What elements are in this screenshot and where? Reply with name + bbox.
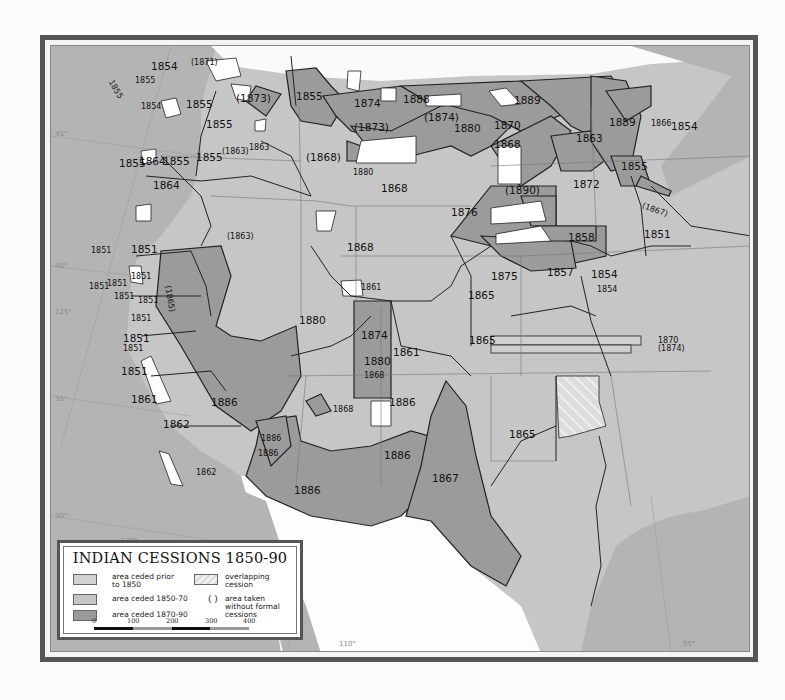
strip-1870 — [491, 345, 631, 353]
svg-text:1874: 1874 — [354, 97, 381, 109]
svg-text:1855: 1855 — [163, 155, 190, 167]
svg-text:95°: 95° — [683, 640, 695, 648]
svg-text:1861: 1861 — [131, 393, 158, 405]
svg-text:1862: 1862 — [163, 418, 190, 430]
svg-text:1889: 1889 — [514, 94, 541, 106]
svg-text:1851: 1851 — [123, 332, 150, 344]
svg-text:1854: 1854 — [141, 102, 161, 111]
svg-text:1863: 1863 — [576, 132, 603, 144]
svg-text:1851: 1851 — [131, 272, 151, 281]
legend-label-1850-70: area ceded 1850-70 — [112, 595, 188, 603]
svg-text:1868: 1868 — [347, 241, 374, 253]
svg-text:1880: 1880 — [299, 314, 326, 326]
svg-text:1874: 1874 — [361, 329, 388, 341]
svg-text:45°: 45° — [55, 130, 67, 138]
svg-text:1861: 1861 — [393, 346, 420, 358]
svg-text:1851: 1851 — [89, 282, 109, 291]
res-4 — [426, 94, 461, 106]
svg-text:125°: 125° — [55, 308, 72, 316]
svg-text:1855: 1855 — [135, 76, 155, 85]
svg-text:1868: 1868 — [494, 138, 521, 150]
svg-text:1857: 1857 — [547, 266, 574, 278]
svg-text:1861: 1861 — [361, 283, 381, 292]
res-8 — [255, 119, 266, 131]
legend-title: INDIAN CESSIONS 1850-90 — [60, 550, 300, 566]
svg-text:30°: 30° — [55, 512, 67, 520]
svg-text:1864: 1864 — [153, 179, 180, 191]
strip-1865 — [491, 336, 641, 345]
svg-text:1868: 1868 — [364, 371, 384, 380]
svg-text:1886: 1886 — [261, 434, 281, 443]
svg-text:1851: 1851 — [114, 292, 134, 301]
svg-text:1855: 1855 — [196, 151, 223, 163]
svg-text:(1868): (1868) — [306, 151, 341, 163]
svg-text:1851: 1851 — [138, 296, 158, 305]
scale-tick-200: 200 — [166, 617, 178, 625]
svg-text:1854: 1854 — [151, 60, 178, 72]
svg-text:(1871): (1871) — [191, 58, 218, 67]
area-1880-co — [354, 301, 391, 398]
svg-text:1851: 1851 — [121, 365, 148, 377]
svg-text:1889: 1889 — [609, 116, 636, 128]
svg-text:1872: 1872 — [573, 178, 600, 190]
svg-text:(1873): (1873) — [236, 92, 271, 104]
svg-text:1886: 1886 — [258, 449, 278, 458]
swatch-prior-1850 — [73, 574, 97, 585]
parentheses-symbol: ( ) — [208, 595, 218, 603]
svg-text:1855: 1855 — [119, 157, 146, 169]
svg-text:(1873): (1873) — [354, 121, 389, 133]
svg-text:1880: 1880 — [454, 122, 481, 134]
svg-text:1851: 1851 — [131, 243, 158, 255]
swatch-1850-70 — [73, 594, 97, 605]
svg-text:1868: 1868 — [333, 405, 353, 414]
svg-text:1855: 1855 — [206, 118, 233, 130]
svg-text:1880: 1880 — [364, 355, 391, 367]
svg-text:1867: 1867 — [432, 472, 459, 484]
svg-text:1854: 1854 — [671, 120, 698, 132]
scale-tick-300: 300 — [205, 617, 217, 625]
svg-text:1851: 1851 — [107, 279, 127, 288]
svg-text:1855: 1855 — [621, 160, 648, 172]
svg-text:1868: 1868 — [381, 182, 408, 194]
svg-text:(1890): (1890) — [505, 184, 540, 196]
svg-text:1865: 1865 — [509, 428, 536, 440]
map-legend: INDIAN CESSIONS 1850-90 area ceded prior… — [57, 540, 303, 640]
svg-text:1886: 1886 — [384, 449, 411, 461]
svg-text:1863: 1863 — [249, 143, 269, 152]
swatch-overlapping — [194, 574, 218, 585]
res-2 — [347, 71, 361, 91]
svg-text:110°: 110° — [339, 640, 356, 648]
scale-tick-100: 100 — [127, 617, 139, 625]
svg-text:1875: 1875 — [491, 270, 518, 282]
svg-text:1865: 1865 — [469, 334, 496, 346]
svg-text:1851: 1851 — [131, 314, 151, 323]
svg-text:1858: 1858 — [568, 231, 595, 243]
svg-text:1866: 1866 — [651, 119, 671, 128]
svg-text:1855: 1855 — [186, 98, 213, 110]
svg-text:(1863): (1863) — [227, 232, 254, 241]
svg-text:35°: 35° — [55, 395, 67, 403]
svg-text:1865: 1865 — [468, 289, 495, 301]
legend-label-overlapping: overlapping cession — [225, 573, 270, 589]
legend-label-taken-without-cession: area taken without formal cessions — [225, 595, 280, 619]
scale-tick-400: 400 — [243, 617, 255, 625]
scale-bar — [94, 627, 249, 630]
svg-text:40°: 40° — [55, 262, 67, 270]
svg-text:1851: 1851 — [644, 228, 671, 240]
svg-text:(1863): (1863) — [222, 147, 249, 156]
res-10 — [136, 204, 151, 221]
svg-text:(1874): (1874) — [658, 344, 685, 353]
svg-text:1876: 1876 — [451, 206, 478, 218]
svg-text:1870: 1870 — [494, 119, 521, 131]
res-3 — [381, 88, 396, 101]
svg-text:1854: 1854 — [591, 268, 618, 280]
svg-text:1888: 1888 — [403, 93, 430, 105]
svg-text:1880: 1880 — [353, 168, 373, 177]
svg-text:1851: 1851 — [91, 246, 111, 255]
svg-text:1862: 1862 — [196, 468, 216, 477]
svg-text:1854: 1854 — [597, 285, 617, 294]
svg-text:1886: 1886 — [389, 396, 416, 408]
svg-text:1886: 1886 — [294, 484, 321, 496]
svg-text:1886: 1886 — [211, 396, 238, 408]
svg-text:1855: 1855 — [296, 90, 323, 102]
